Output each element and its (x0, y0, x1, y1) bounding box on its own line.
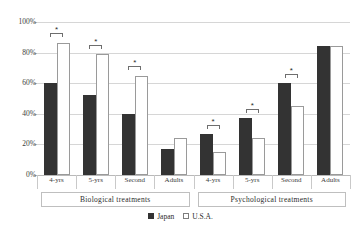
category-label-3: Adults (154, 177, 193, 184)
legend-swatch-icon (148, 213, 154, 219)
y-axis-tick-label: 60% (0, 79, 36, 87)
significance-asterisk: * (201, 118, 226, 126)
bar-usa-0 (57, 43, 70, 175)
group-label-box-0: Biological treatments (41, 192, 190, 207)
significance-asterisk: * (83, 38, 108, 46)
bar-japan-3 (161, 149, 174, 175)
category-label-2: Second (115, 177, 154, 184)
bar-japan-7 (317, 46, 330, 175)
bar-japan-2 (122, 114, 135, 175)
significance-asterisk: * (122, 59, 147, 67)
bar-usa-6 (291, 106, 304, 175)
category-label-1: 5-yrs (76, 177, 115, 184)
category-axis: 4-yrs5-yrsSecondAdults4-yrs5-yrsSecondAd… (37, 175, 350, 189)
gridline (37, 22, 350, 23)
gridline (37, 53, 350, 54)
gridline (37, 83, 350, 84)
bar-japan-1 (83, 95, 96, 175)
category-label-7: Adults (311, 177, 350, 184)
legend-item-usa: U.S.A. (183, 212, 213, 221)
category-divider (350, 175, 351, 189)
significance-asterisk: * (279, 67, 304, 75)
bar-japan-4 (200, 134, 213, 175)
y-axis-tick-label: 80% (0, 49, 36, 57)
bar-usa-7 (330, 46, 343, 175)
bar-usa-4 (213, 152, 226, 175)
category-label-4: 4-yrs (194, 177, 233, 184)
chart-legend: JapanU.S.A. (0, 210, 361, 222)
category-label-0: 4-yrs (37, 177, 76, 184)
legend-label: Japan (157, 212, 174, 221)
significance-asterisk: * (240, 102, 265, 110)
y-axis-tick-label: 20% (0, 140, 36, 148)
y-axis-tick-label: 100% (0, 18, 36, 26)
group-label-box-1: Psychological treatments (198, 192, 347, 207)
legend-item-japan: Japan (148, 212, 174, 221)
category-label-5: 5-yrs (233, 177, 272, 184)
y-axis-tick-label: 0% (0, 171, 36, 179)
legend-swatch-icon (183, 213, 189, 219)
bar-usa-3 (174, 138, 187, 175)
legend-label: U.S.A. (192, 212, 213, 221)
grouped-bar-chart: ****** 0%20%40%60%80%100% 4-yrs5-yrsSeco… (0, 0, 361, 225)
y-axis-tick-label: 40% (0, 110, 36, 118)
category-label-6: Second (272, 177, 311, 184)
bar-japan-0 (44, 83, 57, 175)
bar-usa-5 (252, 138, 265, 175)
plot-area: ****** (37, 22, 350, 175)
bar-usa-1 (96, 54, 109, 175)
bar-japan-5 (239, 118, 252, 175)
bar-japan-6 (278, 83, 291, 175)
bar-usa-2 (135, 76, 148, 175)
significance-asterisk: * (44, 26, 69, 34)
